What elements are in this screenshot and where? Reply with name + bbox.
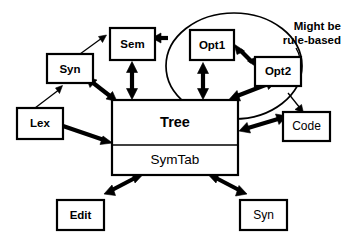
diagram-canvas: Syn Sem Opt1 Opt2 Lex Tree SymTab bbox=[0, 0, 348, 244]
node-syn-bottom[interactable]: Syn bbox=[240, 200, 287, 230]
edge-tree-to-code bbox=[239, 114, 287, 133]
node-tree-symtab-repository[interactable]: Tree SymTab bbox=[112, 100, 238, 175]
node-lex[interactable]: Lex bbox=[17, 108, 63, 139]
annotation-line-2: rule-based bbox=[283, 34, 341, 46]
annotation-line-1: Might be bbox=[294, 20, 341, 32]
annotation-rule-based: Might be rule-based bbox=[283, 20, 341, 46]
node-edit-label: Edit bbox=[70, 209, 92, 221]
node-opt1-label: Opt1 bbox=[199, 39, 226, 51]
node-code-label: Code bbox=[292, 119, 321, 133]
edge-group-to-code bbox=[288, 93, 304, 113]
edge-sem-to-tree bbox=[127, 62, 138, 100]
node-edit[interactable]: Edit bbox=[57, 200, 104, 230]
node-opt2-label: Opt2 bbox=[265, 65, 291, 77]
node-sem-label: Sem bbox=[120, 38, 144, 50]
edge-syn-to-sem bbox=[80, 35, 107, 54]
edge-lex-to-tree bbox=[63, 126, 113, 145]
edge-opt1-to-tree bbox=[198, 63, 209, 100]
edge-lex-to-syn bbox=[35, 86, 63, 109]
node-opt1[interactable]: Opt1 bbox=[190, 30, 234, 60]
node-opt2[interactable]: Opt2 bbox=[255, 57, 301, 86]
node-tree-label: Tree bbox=[160, 114, 190, 130]
node-code[interactable]: Code bbox=[283, 112, 330, 141]
node-symtab-label: SymTab bbox=[151, 152, 200, 167]
node-lex-label: Lex bbox=[30, 117, 50, 129]
node-syn-top-label: Syn bbox=[59, 63, 80, 75]
node-syn-top[interactable]: Syn bbox=[47, 54, 93, 83]
architecture-diagram: Syn Sem Opt1 Opt2 Lex Tree SymTab bbox=[0, 0, 348, 244]
node-sem[interactable]: Sem bbox=[110, 28, 155, 60]
node-syn-bottom-label: Syn bbox=[253, 208, 274, 222]
